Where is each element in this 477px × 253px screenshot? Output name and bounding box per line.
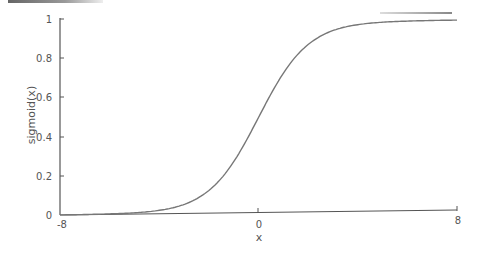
y-tick-0.4: 0.4 bbox=[36, 132, 52, 143]
y-tick-0.2: 0.2 bbox=[36, 171, 52, 182]
y-axis-title: sigmoid(x) bbox=[25, 86, 38, 144]
y-tick-labels: 1 0.8 0.6 0.4 0.2 0 bbox=[36, 14, 52, 221]
sigmoid-chart: 1 0.8 0.6 0.4 0.2 0 -8 0 8 x sigmoid(x) bbox=[0, 0, 477, 253]
x-axis-title: x bbox=[256, 231, 263, 244]
x-tick-labels: -8 0 8 bbox=[57, 215, 461, 230]
sigmoid-curve bbox=[60, 20, 457, 215]
y-tick-0.8: 0.8 bbox=[36, 53, 52, 64]
y-tick-0: 0 bbox=[46, 210, 52, 221]
y-tick-0.6: 0.6 bbox=[36, 92, 52, 103]
x-tick-8: 8 bbox=[455, 215, 461, 226]
y-tick-1: 1 bbox=[46, 14, 52, 25]
x-tick-0: 0 bbox=[256, 219, 262, 230]
x-tick-neg8: -8 bbox=[57, 219, 67, 230]
